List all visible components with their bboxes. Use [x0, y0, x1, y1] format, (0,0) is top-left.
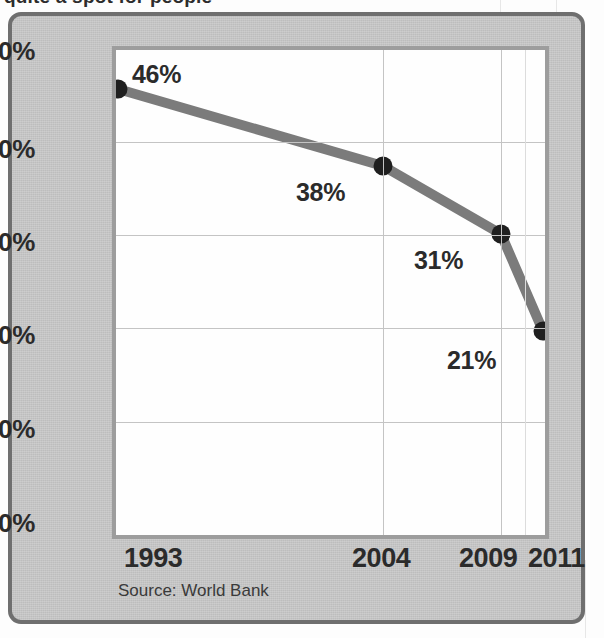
line-series	[116, 50, 545, 535]
gridline-vertical-2009	[501, 50, 502, 535]
data-label-2009: 31%	[414, 246, 463, 275]
chart-figure: 50% 40% 30% 20% 10% 0%	[8, 12, 585, 624]
plot-area: 46% 38% 31% 21%	[112, 46, 549, 539]
data-label-1993: 46%	[132, 60, 181, 89]
data-label-2004: 38%	[296, 178, 345, 207]
series-line	[118, 89, 543, 331]
y-axis-label-10: 10%	[0, 414, 35, 445]
page-rule	[585, 560, 586, 638]
gridline-horizontal-40	[116, 142, 545, 143]
y-axis-label-30: 30%	[0, 227, 35, 258]
x-axis-label-2009: 2009	[459, 543, 517, 574]
gridline-horizontal-10	[116, 422, 545, 423]
y-axis-label-0: 0%	[0, 508, 35, 539]
scanned-page: quite a spot for people 50% 40% 30% 20% …	[0, 0, 604, 638]
x-axis-label-2011: 2011	[528, 543, 585, 574]
gridline-vertical-2004	[383, 50, 384, 535]
gridline-vertical-2011	[525, 50, 526, 535]
gridline-horizontal-30	[116, 235, 545, 236]
y-axis-label-40: 40%	[0, 134, 35, 165]
plot-inner: 46% 38% 31% 21%	[116, 50, 545, 535]
source-note: Source: World Bank	[118, 581, 269, 601]
x-axis-label-2004: 2004	[352, 543, 410, 574]
data-label-2011: 21%	[447, 346, 496, 375]
gridline-horizontal-20	[116, 328, 545, 329]
y-axis-label-50: 50%	[0, 36, 35, 67]
clipped-header-text: quite a spot for people	[0, 0, 604, 9]
x-axis-label-1993: 1993	[124, 543, 182, 574]
y-axis-label-20: 20%	[0, 320, 35, 351]
